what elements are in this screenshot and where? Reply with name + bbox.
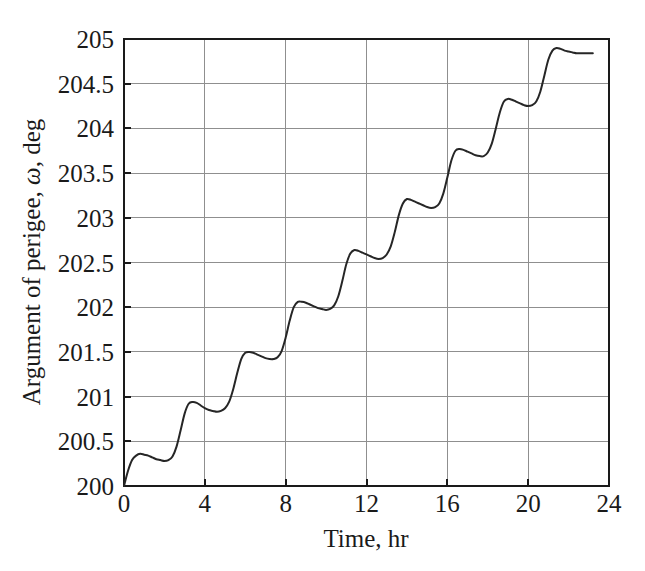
y-axis-title-symbol: ω [18, 167, 45, 185]
x-tick-label: 8 [279, 490, 292, 517]
y-tick-label: 202.5 [58, 250, 114, 277]
y-axis-title-prefix: Argument of perigee, [18, 185, 45, 405]
figure-container: 04812162024 200200.5201201.5202202.52032… [0, 0, 645, 571]
y-tick-label: 201 [77, 384, 115, 411]
x-tick-label: 20 [516, 490, 541, 517]
y-tick-labels: 200200.5201201.5202202.5203203.5204204.5… [58, 26, 115, 500]
x-tick-label: 24 [597, 490, 623, 517]
x-tick-labels: 04812162024 [118, 490, 622, 517]
chart-canvas: 04812162024 200200.5201201.5202202.52032… [0, 0, 645, 571]
y-axis-title: Argument of perigee, ω, deg [18, 118, 45, 405]
axis-ticks [124, 84, 528, 486]
y-tick-label: 205 [77, 26, 115, 53]
y-axis-title-label: Argument of perigee, ω, deg [18, 118, 45, 405]
x-tick-label: 12 [354, 490, 379, 517]
y-tick-label: 200 [77, 473, 115, 500]
data-series [124, 48, 593, 486]
x-axis-title: Time, hr [323, 525, 409, 552]
y-tick-label: 204.5 [58, 71, 114, 98]
y-axis-title-suffix: , deg [18, 118, 45, 167]
y-tick-label: 204 [77, 115, 115, 142]
series-line [124, 48, 593, 486]
x-tick-label: 0 [118, 490, 131, 517]
x-tick-label: 4 [199, 490, 212, 517]
y-tick-label: 202 [77, 294, 115, 321]
y-tick-label: 200.5 [58, 428, 114, 455]
y-tick-label: 203.5 [58, 160, 114, 187]
y-tick-label: 203 [77, 205, 115, 232]
x-tick-label: 16 [435, 490, 460, 517]
y-tick-label: 201.5 [58, 339, 114, 366]
x-axis-title-label: Time, hr [323, 525, 409, 552]
grid-lines [124, 39, 609, 486]
